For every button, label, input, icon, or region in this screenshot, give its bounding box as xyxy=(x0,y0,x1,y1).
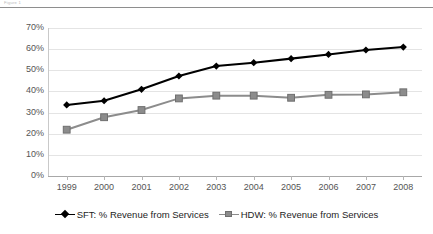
y-tick-label: 0% xyxy=(0,171,44,180)
chart-legend: SFT: % Revenue from ServicesHDW: % Reven… xyxy=(0,204,433,224)
x-tick-label: 2006 xyxy=(312,182,346,193)
x-tickmark xyxy=(216,176,217,180)
data-point-square xyxy=(363,91,370,98)
x-tick-label: 1999 xyxy=(50,182,84,193)
data-point-diamond xyxy=(101,97,108,104)
x-tick-label: 2001 xyxy=(125,182,159,193)
x-axis-labels: 1999200020012002200320042005200620072008 xyxy=(48,182,422,196)
x-tickmark xyxy=(403,176,404,180)
data-point-square xyxy=(101,114,108,121)
line-chart: 0%10%20%30%40%50%60%70% 1999200020012002… xyxy=(0,8,433,234)
data-point-square xyxy=(250,92,257,99)
data-point-square xyxy=(400,89,407,96)
figure-caption: Figure 1 xyxy=(4,0,21,6)
series-hdw xyxy=(63,89,406,133)
data-point-square xyxy=(176,95,183,102)
data-point-diamond xyxy=(288,55,295,62)
y-axis-labels: 0%10%20%30%40%50%60%70% xyxy=(0,28,44,176)
data-point-square xyxy=(213,92,220,99)
data-point-diamond xyxy=(400,43,407,50)
legend-label: HDW: % Revenue from Services xyxy=(241,209,379,220)
x-tickmark xyxy=(254,176,255,180)
x-tick-label: 2003 xyxy=(199,182,233,193)
x-tick-label: 2005 xyxy=(274,182,308,193)
x-tickmark xyxy=(179,176,180,180)
data-point-diamond xyxy=(250,59,257,66)
y-tick-label: 30% xyxy=(0,108,44,117)
x-tickmark xyxy=(104,176,105,180)
y-tick-label: 40% xyxy=(0,86,44,95)
y-tick-label: 20% xyxy=(0,129,44,138)
x-tickmark xyxy=(67,176,68,180)
series-layer xyxy=(48,28,422,176)
y-tick-label: 10% xyxy=(0,150,44,159)
data-point-diamond xyxy=(138,86,145,93)
y-tick-label: 60% xyxy=(0,44,44,53)
x-tick-label: 2007 xyxy=(349,182,383,193)
y-tick-label: 70% xyxy=(0,23,44,32)
x-tickmark xyxy=(366,176,367,180)
x-tick-label: 2000 xyxy=(87,182,121,193)
x-tick-label: 2004 xyxy=(237,182,271,193)
x-tickmark xyxy=(329,176,330,180)
plot-area xyxy=(48,28,422,176)
square-marker-icon xyxy=(219,210,239,219)
x-tickmark xyxy=(142,176,143,180)
series-sft xyxy=(63,43,407,108)
data-point-square xyxy=(325,91,332,98)
data-point-diamond xyxy=(175,72,182,79)
y-tick-label: 50% xyxy=(0,65,44,74)
data-point-square xyxy=(63,126,70,133)
x-tick-label: 2002 xyxy=(162,182,196,193)
legend-entry[interactable]: HDW: % Revenue from Services xyxy=(219,209,379,220)
data-point-square xyxy=(288,94,295,101)
data-point-diamond xyxy=(63,101,70,108)
legend-label: SFT: % Revenue from Services xyxy=(77,209,209,220)
data-point-diamond xyxy=(325,51,332,58)
diamond-marker-icon xyxy=(55,210,75,219)
series-line xyxy=(67,92,404,129)
x-tick-label: 2008 xyxy=(386,182,420,193)
legend-entry[interactable]: SFT: % Revenue from Services xyxy=(55,209,209,220)
y-axis-line xyxy=(48,28,49,177)
data-point-square xyxy=(138,107,145,114)
data-point-diamond xyxy=(213,62,220,69)
data-point-diamond xyxy=(362,46,369,53)
x-tickmark xyxy=(291,176,292,180)
